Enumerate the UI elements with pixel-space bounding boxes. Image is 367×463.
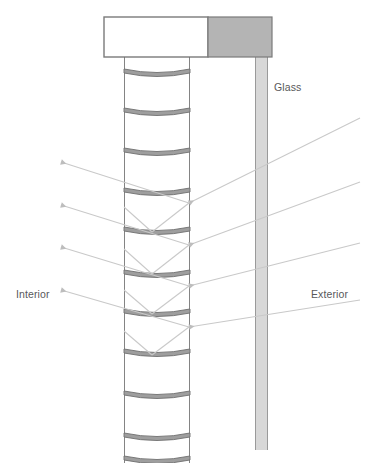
venetian-blind	[124, 57, 190, 463]
blind-slat	[124, 188, 190, 196]
diagram-canvas	[0, 0, 367, 463]
label-glass: Glass	[274, 81, 301, 93]
blind-glass-section-diagram: Glass Interior Exterior	[0, 0, 367, 463]
blind-slat	[124, 433, 190, 441]
blind-slat	[124, 148, 190, 156]
blind-headbox	[104, 17, 272, 57]
internal-reflection-ray	[152, 245, 189, 274]
blind-slat	[124, 456, 190, 463]
headbox-white-enclosure	[104, 17, 208, 57]
incoming-sun-ray	[189, 243, 360, 286]
blind-slat	[124, 108, 190, 116]
blind-slat	[124, 349, 190, 357]
glass-panel	[255, 57, 268, 450]
headbox-gray-lintel	[208, 17, 272, 57]
blind-slat-layer	[124, 69, 190, 463]
incoming-sun-ray	[189, 118, 360, 203]
light-ray-layer	[61, 118, 360, 355]
internal-reflection-ray	[152, 203, 189, 232]
blind-slat	[124, 391, 190, 399]
incoming-sun-ray	[189, 300, 360, 327]
incoming-sun-ray	[189, 182, 360, 245]
label-interior: Interior	[16, 288, 49, 300]
blind-slat	[124, 69, 190, 77]
glass-pane-fill	[255, 57, 268, 450]
label-exterior: Exterior	[311, 288, 348, 300]
